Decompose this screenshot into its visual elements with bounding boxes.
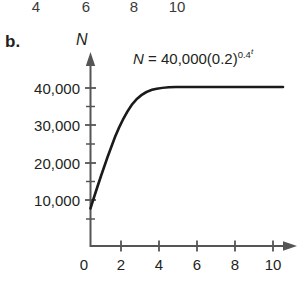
x-tick-label: 10 (261, 256, 285, 273)
figure-panel: 4 6 8 10 b. N N = 40,000(0.2)0.4t (0, 0, 303, 283)
x-tick-label: 4 (147, 256, 171, 273)
x-tick-label: 2 (109, 256, 133, 273)
y-tick-label: 10,000 (8, 192, 80, 209)
y-tick-label: 20,000 (8, 155, 80, 172)
x-tick-label: 0 (72, 256, 96, 273)
data-curve (91, 87, 284, 209)
y-tick-label: 30,000 (8, 117, 80, 134)
y-tick-label: 40,000 (8, 80, 80, 97)
y-axis-arrow-icon (86, 52, 95, 66)
plot-area (0, 0, 303, 283)
x-axis-arrow-icon (283, 241, 297, 250)
x-tick-label: 8 (223, 256, 247, 273)
x-tick-label: 6 (185, 256, 209, 273)
